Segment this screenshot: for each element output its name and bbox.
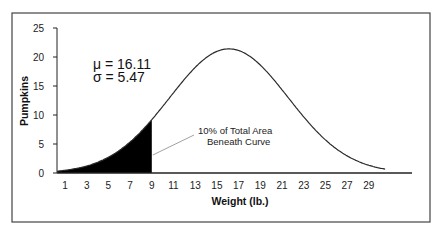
x-tick-label: 21 (276, 180, 288, 191)
x-tick-label: 5 (106, 180, 112, 191)
y-tick-label: 20 (33, 52, 45, 63)
y-tick-label: 10 (33, 110, 45, 121)
y-tick-label: 0 (38, 168, 44, 179)
x-axis-ticks: 1357911131517192123252729 (62, 180, 375, 191)
x-axis-title: Weight (lb.) (212, 195, 269, 207)
x-tick-label: 27 (342, 180, 354, 191)
x-tick-label: 3 (84, 180, 90, 191)
y-tick-label: 5 (38, 139, 44, 150)
x-tick-label: 11 (168, 180, 179, 191)
sd-label: σ = 5.47 (93, 69, 145, 85)
x-tick-label: 1 (62, 180, 68, 191)
y-axis-title: Pumpkins (18, 76, 30, 126)
area-note-line1: 10% of Total Area (198, 125, 273, 136)
x-tick-label: 19 (255, 180, 267, 191)
x-tick-label: 29 (363, 180, 375, 191)
x-tick-label: 25 (320, 180, 332, 191)
x-tick-label: 13 (190, 180, 202, 191)
normal-distribution-chart: 0510152025 1357911131517192123252729 μ =… (0, 0, 440, 238)
x-tick-label: 9 (149, 180, 155, 191)
x-tick-label: 23 (298, 180, 310, 191)
y-tick-label: 15 (33, 81, 45, 92)
x-tick-label: 15 (211, 180, 223, 191)
area-note-line2: Beneath Curve (207, 136, 270, 147)
x-tick-label: 7 (127, 180, 133, 191)
y-tick-label: 25 (33, 23, 45, 34)
x-tick-label: 17 (233, 180, 245, 191)
